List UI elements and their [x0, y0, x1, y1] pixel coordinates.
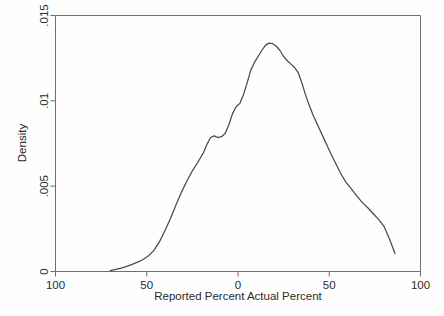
x-tick-label: 100	[46, 279, 65, 291]
y-tick-label: 0	[38, 268, 50, 274]
y-tick-label: .015	[38, 4, 50, 26]
x-tick-label: 50	[323, 279, 336, 291]
y-axis-title: Density	[16, 124, 28, 163]
x-tick-label: 50	[140, 279, 153, 291]
y-tick-label: .01	[38, 93, 50, 109]
x-tick-label: 100	[411, 279, 430, 291]
plot-background	[0, 0, 444, 316]
density-plot-figure: 10050050100 0.005.01.015 Reported Percen…	[0, 0, 444, 316]
y-tick-label: .005	[38, 175, 50, 197]
x-axis-title: Reported Percent Actual Percent	[154, 290, 322, 302]
x-tick-label: 0	[235, 279, 241, 291]
chart-canvas: 10050050100 0.005.01.015 Reported Percen…	[0, 0, 444, 316]
